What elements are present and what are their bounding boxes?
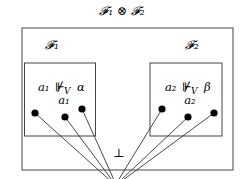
right-formula-rhs: β [203, 80, 211, 94]
world-dot [158, 105, 165, 112]
world-dot [210, 109, 217, 116]
right-formula-lhs: a₂ [165, 80, 177, 94]
connection-line [35, 113, 113, 179]
right-frame-label: 𝓕₂ [185, 38, 199, 52]
diagram-title: 𝓕₁ ⊗ 𝓕₂ [99, 4, 144, 18]
world-dot [184, 113, 191, 120]
world-dot [78, 105, 85, 112]
world-dot [31, 109, 38, 116]
frame-product-diagram: 𝓕₁ ⊗ 𝓕₂ 𝓕₁ 𝓕₂ a₁ ⊮ V α a₁ a₂ ⊮ V β a₂ ⊥ [0, 0, 245, 179]
connection-line [119, 113, 214, 179]
connection-line [82, 109, 115, 179]
left-frame-label: 𝓕₁ [45, 38, 59, 52]
right-sub-label: a₂ [184, 93, 196, 107]
left-formula-lhs: a₁ [38, 80, 49, 94]
left-sub-label: a₁ [58, 93, 69, 107]
left-formula-rhs: α [77, 80, 85, 94]
world-dots [31, 105, 217, 120]
world-dot [61, 113, 68, 120]
bottom-symbol: ⊥ [113, 146, 124, 160]
